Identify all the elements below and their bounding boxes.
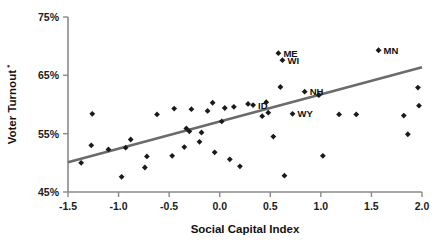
scatter-point: [88, 142, 94, 148]
y-tick-label: 55%: [38, 128, 60, 140]
scatter-point-label-wy: WY: [298, 108, 314, 119]
scatter-point-label-nh: NH: [310, 86, 324, 97]
trend-line: [68, 67, 422, 162]
scatter-point: [188, 106, 194, 112]
scatter-point: [250, 102, 256, 108]
scatter-point: [210, 100, 216, 106]
axes: [63, 17, 422, 197]
scatter-point: [227, 156, 233, 162]
y-axis-title-text: Voter Turnout: [6, 70, 18, 144]
scatter-point: [320, 153, 326, 159]
x-tick-label: -1.0: [110, 200, 128, 212]
scatter-point: [270, 134, 276, 140]
point-labels: IDMEWIWYNHMN: [258, 45, 398, 120]
scatter-point: [290, 111, 296, 117]
scatter-point: [89, 111, 95, 117]
scatter-point: [171, 106, 177, 112]
scatter-point: [128, 137, 134, 143]
chart-canvas: IDMEWIWYNHMN 45%55%65%75%-1.5-1.0-0.50.0…: [0, 0, 440, 245]
y-tick-label: 45%: [38, 186, 60, 198]
scatter-point: [169, 153, 175, 159]
scatter-point: [302, 89, 308, 95]
scatter-point: [142, 165, 148, 171]
x-tick-label: 0.0: [212, 200, 227, 212]
tick-labels: 45%55%65%75%-1.5-1.0-0.50.00.51.01.52.0: [38, 11, 429, 212]
scatter-point: [144, 154, 150, 160]
scatter-point: [416, 103, 422, 109]
scatter-point: [259, 113, 265, 119]
scatter-point: [401, 113, 407, 119]
scatter-point: [282, 173, 288, 179]
x-tick-label: -1.5: [59, 200, 77, 212]
x-tick-label: -0.5: [160, 200, 178, 212]
scatter-point: [278, 84, 284, 90]
regression-trend-line: [68, 67, 422, 162]
scatter-point: [353, 112, 359, 118]
x-axis-title: Social Capital Index: [191, 223, 300, 235]
scatter-point: [205, 108, 211, 114]
scatter-point-label-mn: MN: [384, 45, 399, 56]
scatter-point: [336, 112, 342, 118]
scatter-point: [197, 139, 203, 145]
scatter-point-label-wi: WI: [287, 55, 299, 66]
y-axis-title: Voter Turnout *: [5, 64, 18, 145]
x-tick-label: 2.0: [415, 200, 430, 212]
scatter-point: [181, 144, 187, 150]
y-axis-title-footnote-marker: *: [5, 64, 14, 70]
scatter-point: [154, 112, 160, 118]
scatter-point: [265, 110, 271, 116]
x-tick-label: 1.0: [314, 200, 329, 212]
scatter-point: [275, 50, 281, 56]
scatter-point: [245, 101, 251, 107]
x-tick-label: 1.5: [364, 200, 379, 212]
y-tick-label: 65%: [38, 69, 60, 81]
scatter-point: [119, 174, 125, 180]
scatter-point-label-id: ID: [258, 100, 268, 111]
scatter-point: [237, 163, 243, 169]
scatter-point: [222, 105, 228, 111]
axis-titles: Social Capital IndexVoter Turnout *: [5, 64, 300, 235]
voter-turnout-scatter-figure: IDMEWIWYNHMN 45%55%65%75%-1.5-1.0-0.50.0…: [0, 0, 440, 245]
scatter-point: [376, 47, 382, 53]
scatter-point: [78, 160, 84, 166]
scatter-point: [212, 149, 218, 155]
scatter-point: [199, 130, 205, 136]
scatter-point: [405, 131, 411, 137]
scatter-point: [415, 85, 421, 91]
x-tick-label: 0.5: [263, 200, 278, 212]
y-tick-label: 75%: [38, 11, 60, 23]
scatter-point: [231, 104, 237, 110]
